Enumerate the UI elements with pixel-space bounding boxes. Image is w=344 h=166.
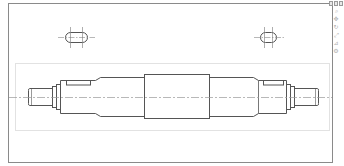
shaft-front-view xyxy=(29,75,319,119)
drawing-canvas[interactable] xyxy=(0,0,344,166)
maximize-button[interactable] xyxy=(334,1,338,6)
view-toolbar: ⌕ ✥ ↻ ⤢ ⊿ ⚙ xyxy=(329,1,343,54)
settings-icon[interactable]: ⚙ xyxy=(332,48,341,54)
fit-icon[interactable]: ⤢ xyxy=(332,32,341,38)
measure-icon[interactable]: ⊿ xyxy=(332,40,341,46)
keyway-section-left xyxy=(58,27,95,48)
view-frame xyxy=(16,64,330,131)
rotate-icon[interactable]: ↻ xyxy=(332,24,341,30)
close-button[interactable] xyxy=(339,1,343,6)
minimize-button[interactable] xyxy=(329,1,333,6)
keyway-section-right xyxy=(254,27,284,48)
window-buttons xyxy=(329,1,343,6)
zoom-icon[interactable]: ⌕ xyxy=(332,8,341,14)
pan-icon[interactable]: ✥ xyxy=(332,16,341,22)
